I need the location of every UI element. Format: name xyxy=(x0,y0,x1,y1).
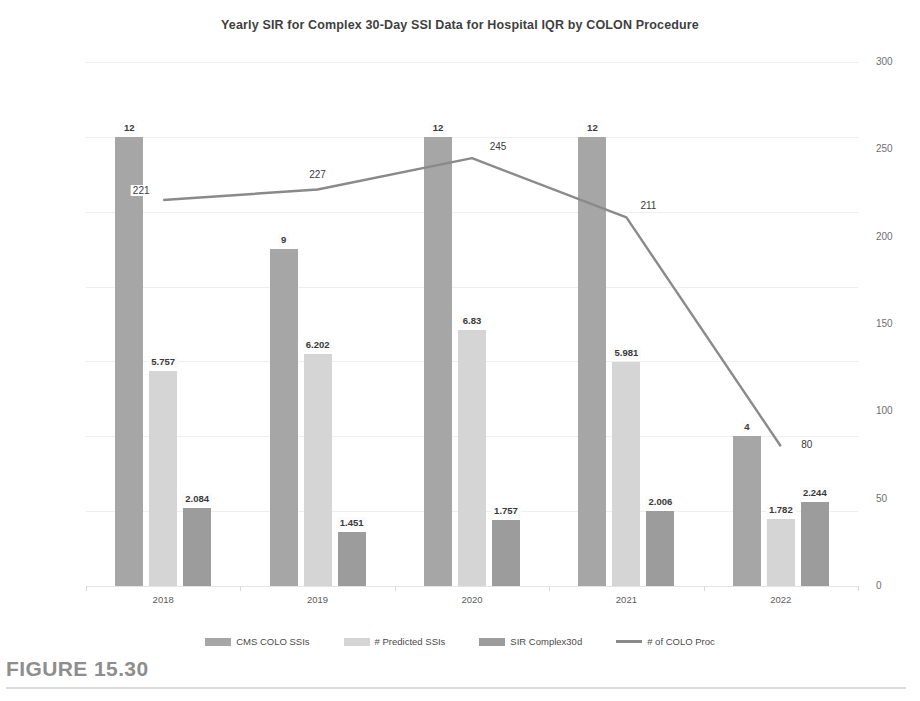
legend-color-swatch xyxy=(479,638,505,646)
legend-item-3[interactable]: SIR Complex30d xyxy=(479,636,582,647)
legend-item-4[interactable]: # of COLO Proc xyxy=(616,636,715,647)
y-axis-right-tick: 200 xyxy=(876,231,920,242)
line-series-layer xyxy=(86,62,858,586)
legend-line-swatch xyxy=(616,640,642,643)
x-axis-tickmark xyxy=(549,586,550,591)
x-axis-tickmark xyxy=(395,586,396,591)
line-series-colo-proc[interactable] xyxy=(163,158,781,446)
y-axis-right-tick: 0 xyxy=(876,580,920,591)
x-axis-tick-2019: 2019 xyxy=(307,594,328,605)
x-axis-tickmark xyxy=(858,586,859,591)
legend-label: CMS COLO SSIs xyxy=(236,636,309,647)
x-axis-tickmark xyxy=(704,586,705,591)
line-data-label: 221 xyxy=(131,185,152,196)
legend-color-swatch xyxy=(205,638,231,646)
line-data-label: 211 xyxy=(638,200,658,211)
chart-title: Yearly SIR for Complex 30-Day SSI Data f… xyxy=(0,18,920,32)
y-axis-right-tick: 250 xyxy=(876,143,920,154)
legend-label: # Predicted SSIs xyxy=(375,636,446,647)
legend-color-swatch xyxy=(344,638,370,646)
x-axis-tickmark xyxy=(240,586,241,591)
legend-label: # of COLO Proc xyxy=(647,636,715,647)
y-axis-right-tick: 100 xyxy=(876,405,920,416)
figure-container: Yearly SIR for Complex 30-Day SSI Data f… xyxy=(0,0,920,701)
x-axis-tickmark xyxy=(86,586,87,591)
y-axis-right-tick: 300 xyxy=(876,56,920,67)
axis-baseline xyxy=(86,586,858,587)
line-data-label: 80 xyxy=(799,439,814,450)
figure-caption-block: FIGURE 15.30 xyxy=(0,657,920,689)
x-axis-tick-2018: 2018 xyxy=(153,594,174,605)
line-data-label: 227 xyxy=(307,169,328,180)
y-axis-right-tick: 50 xyxy=(876,493,920,504)
chart-legend: CMS COLO SSIs# Predicted SSIsSIR Complex… xyxy=(0,636,920,647)
x-axis-tick-2022: 2022 xyxy=(770,594,791,605)
y-axis-right-tick: 150 xyxy=(876,318,920,329)
legend-item-2[interactable]: # Predicted SSIs xyxy=(344,636,446,647)
caption-divider xyxy=(6,687,906,689)
plot-area: 02468101214 050100150200250300 129121245… xyxy=(86,62,858,586)
line-data-label: 245 xyxy=(488,141,509,152)
x-axis-tick-2020: 2020 xyxy=(461,594,482,605)
legend-item-1[interactable]: CMS COLO SSIs xyxy=(205,636,309,647)
x-axis-tick-2021: 2021 xyxy=(616,594,637,605)
legend-label: SIR Complex30d xyxy=(510,636,582,647)
figure-caption: FIGURE 15.30 xyxy=(0,657,920,681)
